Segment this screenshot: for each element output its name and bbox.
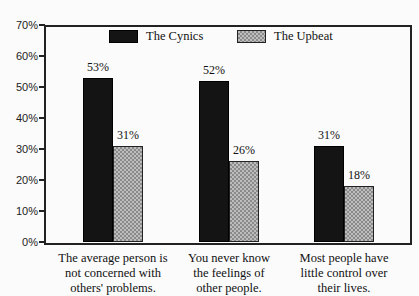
bar-cynics: [83, 78, 113, 242]
y-tick-label: 50%: [16, 81, 38, 93]
x-category-label: The average person isnot concerned witho…: [48, 251, 178, 296]
y-tick: [39, 117, 45, 119]
y-tick-label: 60%: [16, 50, 38, 62]
y-tick: [39, 55, 45, 57]
bar-value-label: 31%: [309, 129, 349, 142]
bar-cynics: [314, 146, 344, 242]
legend-label-upbeat: The Upbeat: [274, 29, 333, 44]
bar-value-label: 31%: [108, 129, 148, 142]
y-tick-label: 40%: [16, 112, 38, 124]
x-category-line: their lives.: [279, 281, 409, 296]
x-category-line: others' problems.: [48, 281, 178, 296]
bar-upbeat: [344, 186, 374, 242]
y-tick-label: 10%: [16, 205, 38, 217]
bar-value-label: 18%: [339, 169, 379, 182]
bar-cynics: [199, 81, 229, 242]
y-tick: [39, 179, 45, 181]
x-category-line: You never know: [164, 251, 294, 266]
x-category-line: other people.: [164, 281, 294, 296]
bar-upbeat: [229, 161, 259, 242]
bar-value-label: 52%: [194, 64, 234, 77]
x-category-label: Most people havelittle control overtheir…: [279, 251, 409, 296]
y-tick: [39, 148, 45, 150]
bar-value-label: 26%: [224, 144, 264, 157]
x-category-line: not concerned with: [48, 266, 178, 281]
y-tick-label: 70%: [16, 19, 38, 31]
x-category-label: You never knowthe feelings ofother peopl…: [164, 251, 294, 296]
y-tick-label: 30%: [16, 143, 38, 155]
y-tick-label: 20%: [16, 174, 38, 186]
legend-swatch-cynics: [109, 30, 138, 43]
y-tick: [39, 86, 45, 88]
legend-label-cynics: The Cynics: [146, 29, 203, 44]
x-category-line: Most people have: [279, 251, 409, 266]
x-category-line: little control over: [279, 266, 409, 281]
y-tick-label: 0%: [22, 236, 38, 248]
y-tick: [39, 241, 45, 243]
legend-swatch-upbeat: [237, 30, 266, 43]
x-category-line: The average person is: [48, 251, 178, 266]
y-tick: [39, 210, 45, 212]
y-tick: [39, 24, 45, 26]
x-category-line: the feelings of: [164, 266, 294, 281]
bar-upbeat: [113, 146, 143, 242]
bar-value-label: 53%: [78, 61, 118, 74]
